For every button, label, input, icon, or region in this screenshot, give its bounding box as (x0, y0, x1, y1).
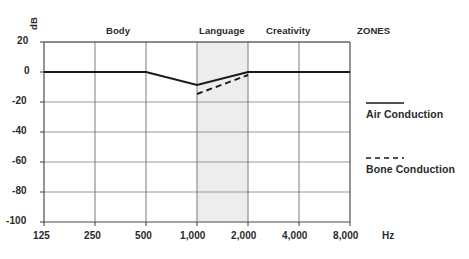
x-tick-250: 250 (84, 230, 101, 241)
x-tick-2000: 2,000 (231, 230, 257, 241)
x-axis-unit-label: Hz (382, 230, 394, 241)
audiogram-svg (0, 0, 469, 259)
zone-label-creativity: Creativity (266, 25, 310, 36)
x-tick-4000: 4,000 (282, 230, 308, 241)
zone-label-body: Body (106, 25, 130, 36)
x-tick-8000: 8,000 (333, 230, 359, 241)
x-tick-125: 125 (33, 230, 50, 241)
y-tick-minus60: -60 (12, 155, 27, 166)
y-tick-20: 20 (17, 35, 28, 46)
y-tick-minus20: -20 (12, 95, 27, 106)
legend-label-air-conduction: Air Conduction (366, 108, 443, 120)
y-tick-minus40: -40 (12, 125, 27, 136)
x-axis-ticks (44, 222, 350, 226)
y-tick-minus80: -80 (12, 185, 27, 196)
y-tick-minus100: -100 (6, 215, 26, 226)
zones-header: ZONES (357, 25, 390, 36)
y-tick-0: 0 (24, 65, 30, 76)
x-tick-1000: 1,000 (180, 230, 206, 241)
x-tick-500: 500 (135, 230, 152, 241)
legend-label-bone-conduction: Bone Conduction (366, 163, 455, 175)
zone-label-language: Language (199, 25, 245, 36)
